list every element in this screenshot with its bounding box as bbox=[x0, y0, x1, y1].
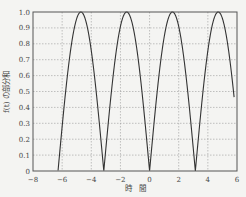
x-tick-label: −8 bbox=[28, 176, 38, 184]
y-tick-label: 0.2 bbox=[19, 136, 30, 144]
y-axis-label: f(t) の部分和 bbox=[1, 71, 11, 113]
y-tick-label: 0.5 bbox=[19, 88, 30, 96]
y-tick-label: 0.1 bbox=[19, 152, 30, 160]
y-tick-label: 0.6 bbox=[19, 72, 31, 80]
y-tick-label: 0 bbox=[26, 168, 30, 176]
x-tick-label: 0 bbox=[147, 176, 151, 184]
y-tick-label: 0.9 bbox=[19, 24, 30, 32]
y-tick-label: 1.0 bbox=[19, 9, 30, 17]
x-tick-label: 2 bbox=[176, 176, 180, 184]
y-tick-label: 0.3 bbox=[19, 120, 30, 128]
x-tick-label: −6 bbox=[57, 176, 68, 184]
x-tick-label: 6 bbox=[235, 176, 240, 184]
x-tick-label: −2 bbox=[115, 176, 125, 184]
x-axis-ticks: −8−6−4−20246 bbox=[28, 176, 240, 184]
x-tick-label: 4 bbox=[206, 176, 211, 184]
x-tick-label: −4 bbox=[86, 176, 97, 184]
x-axis-label: 時 間 bbox=[125, 184, 146, 193]
y-tick-label: 0.7 bbox=[19, 56, 30, 64]
y-tick-label: 0.4 bbox=[19, 104, 31, 112]
y-tick-label: 0.8 bbox=[19, 40, 30, 48]
chart-figure: −8−6−4−20246 00.10.20.30.40.50.60.70.80.… bbox=[0, 0, 246, 197]
y-axis-ticks: 00.10.20.30.40.50.60.70.80.91.0 bbox=[19, 9, 31, 176]
